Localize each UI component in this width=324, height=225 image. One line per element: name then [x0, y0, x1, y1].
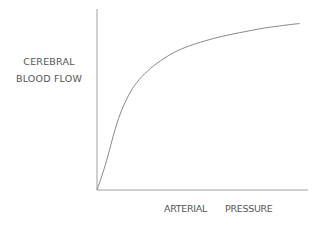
- y-axis-label-line-2: BLOOD FLOW: [8, 70, 90, 87]
- y-axis-label: CEREBRAL BLOOD FLOW: [8, 53, 90, 87]
- x-axis-label-word-1: ARTERIAL: [164, 203, 207, 214]
- x-axis-label-word-2: PRESSURE: [225, 203, 273, 214]
- blood-flow-curve: [97, 24, 300, 191]
- y-axis-label-line-1: CEREBRAL: [8, 53, 90, 70]
- x-axis-label: ARTERIALPRESSURE: [164, 203, 273, 214]
- chart-canvas: [0, 0, 324, 225]
